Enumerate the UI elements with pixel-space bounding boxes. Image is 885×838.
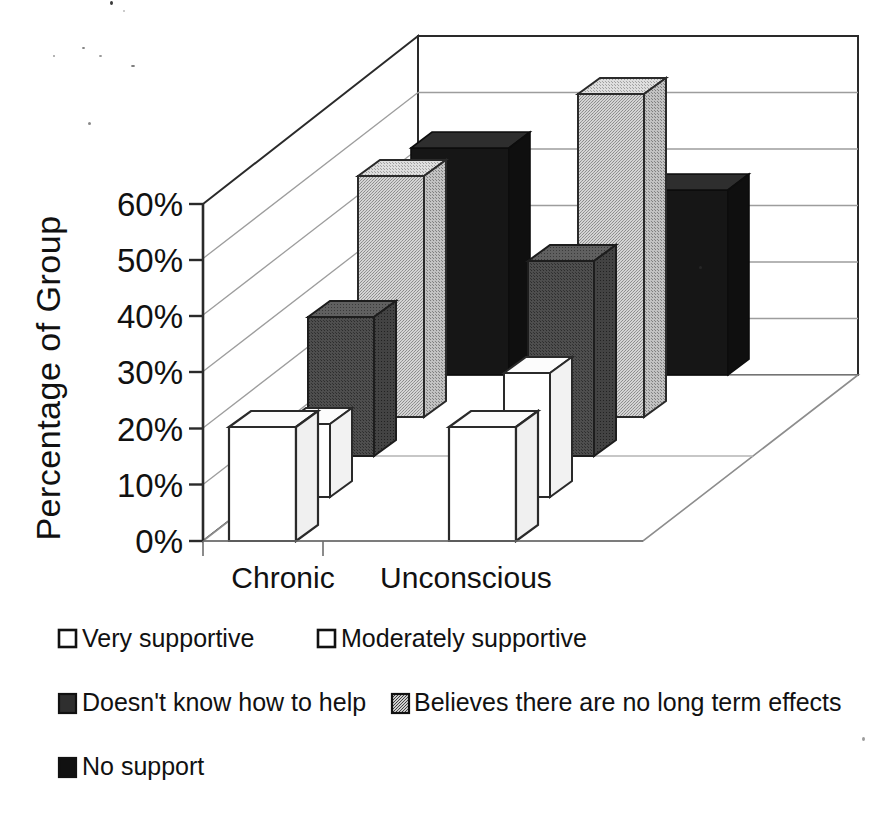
legend-swatch-white-moderately-supportive xyxy=(318,630,335,647)
scan-speck xyxy=(88,122,91,125)
legend-item-moderately-supportive[interactable]: Moderately supportive xyxy=(318,624,587,652)
scan-speck xyxy=(110,1,113,5)
y-tick-label-40: 40% xyxy=(117,298,183,335)
scan-speck xyxy=(699,266,702,269)
legend: Very supportive Moderately supportive Do… xyxy=(59,624,842,780)
legend-label-very-supportive: Very supportive xyxy=(82,624,254,652)
y-tick-label-30: 30% xyxy=(117,354,183,391)
legend-swatch-white-very-supportive xyxy=(59,630,76,647)
legend-item-doesnt-know-how-to-help[interactable]: Doesn't know how to help xyxy=(59,688,366,716)
scan-speck xyxy=(82,47,85,49)
scan-speck xyxy=(99,55,102,57)
legend-label-believes-no-long-term-effects: Believes there are no long term effects xyxy=(414,688,842,716)
legend-swatch-dark-gray-doesnt-know xyxy=(59,694,76,713)
x-category-label-unconscious: Unconscious xyxy=(380,561,552,594)
y-tick-label-10: 10% xyxy=(117,467,183,504)
legend-swatch-black-no-support xyxy=(59,758,76,777)
scan-speck xyxy=(123,10,125,12)
legend-item-no-support[interactable]: No support xyxy=(59,752,204,780)
y-axis-title: Percentage of Group xyxy=(29,215,67,540)
chart-container: 60% 50% 40% 30% 20% 10% 0% Percentage of… xyxy=(0,0,885,838)
legend-label-moderately-supportive: Moderately supportive xyxy=(341,624,587,652)
legend-label-no-support: No support xyxy=(82,752,204,780)
legend-label-doesnt-know-how-to-help: Doesn't know how to help xyxy=(82,688,366,716)
legend-item-very-supportive[interactable]: Very supportive xyxy=(59,624,254,652)
bar-chart-3d: 60% 50% 40% 30% 20% 10% 0% Percentage of… xyxy=(0,0,885,838)
scan-speck xyxy=(862,737,865,741)
y-tick-label-20: 20% xyxy=(117,411,183,448)
y-tick-label-50: 50% xyxy=(117,242,183,279)
scan-speck xyxy=(53,55,55,57)
legend-swatch-light-gray-believes xyxy=(392,694,409,713)
legend-item-believes-no-long-term-effects[interactable]: Believes there are no long term effects xyxy=(392,688,842,716)
bar-chronic-very-supportive xyxy=(229,411,318,541)
x-axis: Chronic Unconscious xyxy=(203,541,643,594)
bar-unconscious-very-supportive xyxy=(449,411,538,541)
y-axis: 60% 50% 40% 30% 20% 10% 0% Percentage of… xyxy=(29,186,203,560)
y-tick-label-60: 60% xyxy=(117,186,183,223)
scan-speck xyxy=(131,65,135,67)
x-category-label-chronic: Chronic xyxy=(231,561,334,594)
y-tick-label-0: 0% xyxy=(135,523,183,560)
